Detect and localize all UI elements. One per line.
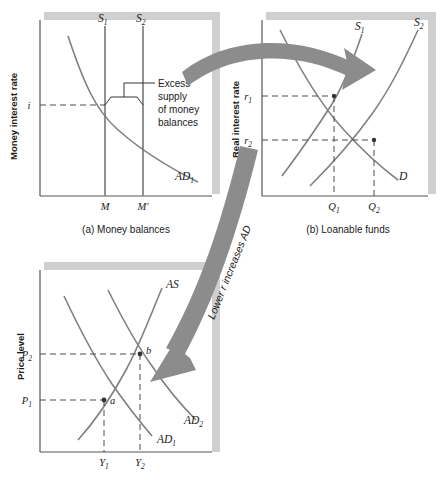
panel-c-shadow-top — [44, 262, 220, 270]
panel-c-curve-ad1 — [64, 296, 152, 436]
panel-a-caption: (a) Money balances — [82, 224, 170, 235]
panel-a-y-axis-label: Money interest rate — [8, 73, 19, 160]
panel-c-label-as: AS — [165, 278, 179, 290]
panel-b-shadow-top — [266, 12, 436, 20]
arrow-1-band — [182, 43, 352, 86]
panel-b-ytick-r2: r2 — [244, 135, 252, 149]
panel-money-balances: Money interest rate S1 S2 AD1 i M M′ — [8, 12, 220, 235]
panel-c-label-ad2: AD2 — [183, 414, 203, 429]
panel-c-point-b-label: b — [146, 345, 151, 356]
panel-b-equilibrium-1 — [332, 94, 336, 98]
panel-b-y-axis-label: Real interest rate — [230, 81, 241, 158]
economics-figure: Money interest rate S1 S2 AD1 i M M′ — [0, 0, 443, 485]
panel-a-xtick-m: M — [100, 201, 111, 212]
panel-b-label-s1: S1 — [355, 20, 365, 35]
panel-b-equilibrium-2 — [372, 138, 376, 142]
panel-b-label-d: D — [398, 170, 408, 182]
panel-c-ytick-p1: P1 — [21, 395, 32, 409]
panel-b-shadow-right — [428, 12, 436, 194]
panel-a-xtick-mprime: M′ — [136, 201, 149, 212]
panel-b-xtick-q1: Q1 — [328, 201, 339, 215]
money-to-loanable-arrow — [182, 43, 376, 90]
panel-c-point-a-label: a — [110, 395, 115, 406]
excess-note-line-4: balances — [158, 117, 198, 128]
panel-a-shadow-right — [212, 12, 220, 194]
figure-canvas: Money interest rate S1 S2 AD1 i M M′ — [0, 0, 443, 485]
panel-c-xtick-y1: Y1 — [99, 457, 109, 471]
panel-c-xtick-y2: Y2 — [135, 457, 145, 471]
panel-c-point-a — [102, 398, 107, 403]
panel-c-label-ad1: AD1 — [156, 433, 176, 448]
panel-a-excess-leader — [124, 83, 155, 97]
panel-b-xtick-q2: Q2 — [368, 201, 380, 215]
excess-note-line-2: supply — [158, 91, 187, 102]
arrow-1-head — [342, 48, 376, 90]
excess-note-line-3: of money — [158, 104, 199, 115]
panel-a-excess-supply-note: Excess supply of money balances — [158, 78, 199, 128]
panel-a-excess-bracket — [105, 97, 143, 105]
panel-a-shadow-top — [44, 12, 220, 20]
panel-c-point-b — [138, 352, 143, 357]
panel-b-ytick-r1: r1 — [244, 91, 252, 105]
panel-b-caption: (b) Loanable funds — [306, 224, 389, 235]
panel-a-ytick-i: i — [28, 100, 31, 111]
panel-c-curve-as — [78, 288, 162, 440]
panel-a-label-ad1: AD1 — [174, 170, 194, 185]
